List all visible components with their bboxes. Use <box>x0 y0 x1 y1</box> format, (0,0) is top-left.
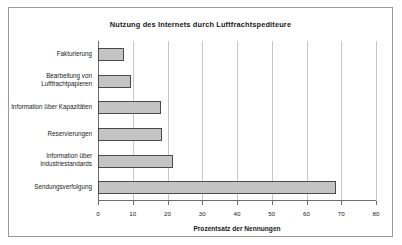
x-tick-label-10: 10 <box>129 210 136 217</box>
gridline-30 <box>202 41 203 201</box>
x-tick-label-40: 40 <box>234 210 241 217</box>
bar <box>98 128 162 141</box>
chart-title: Nutzung des Internets durch Luftfrachtsp… <box>9 20 392 29</box>
x-tick-40 <box>237 201 238 205</box>
x-tick-60 <box>307 201 308 205</box>
gridline-80 <box>376 41 377 201</box>
chart-frame: Nutzung des Internets durch Luftfrachtsp… <box>8 7 393 237</box>
bar <box>98 48 124 61</box>
gridline-20 <box>168 41 169 201</box>
gridline-10 <box>133 41 134 201</box>
category-label: Information über Industriestandards <box>0 152 96 167</box>
category-label: Bearbeitung von Luftfrachtpapieren <box>0 72 96 87</box>
x-tick-80 <box>376 201 377 205</box>
plot-area: 01020304050607080 FakturierungBearbeitun… <box>98 41 376 201</box>
category-label: Information über Kapazitäten <box>0 103 96 111</box>
x-tick-70 <box>341 201 342 205</box>
x-tick-label-50: 50 <box>268 210 275 217</box>
bar <box>98 101 161 114</box>
bar <box>98 75 131 88</box>
y-axis-line <box>98 41 99 201</box>
x-tick-label-0: 0 <box>96 210 99 217</box>
x-tick-30 <box>202 201 203 205</box>
y-axis-category-labels: FakturierungBearbeitung von Luftfrachtpa… <box>0 41 96 201</box>
gridline-40 <box>237 41 238 201</box>
category-label: Reservierungen <box>0 130 96 138</box>
bar <box>98 155 173 168</box>
gridline-50 <box>272 41 273 201</box>
x-tick-10 <box>133 201 134 205</box>
x-tick-label-30: 30 <box>199 210 206 217</box>
x-axis-title: Prozentsatz der Nennungen <box>98 225 376 232</box>
x-tick-20 <box>168 201 169 205</box>
x-tick-0 <box>98 201 99 205</box>
gridline-70 <box>341 41 342 201</box>
bar <box>98 181 336 194</box>
x-tick-50 <box>272 201 273 205</box>
x-tick-label-80: 80 <box>373 210 380 217</box>
category-label: Sendungsverfolgung <box>0 183 96 191</box>
x-tick-label-20: 20 <box>164 210 171 217</box>
category-label: Fakturierung <box>0 50 96 58</box>
x-tick-label-70: 70 <box>338 210 345 217</box>
x-tick-label-60: 60 <box>303 210 310 217</box>
gridline-60 <box>307 41 308 201</box>
